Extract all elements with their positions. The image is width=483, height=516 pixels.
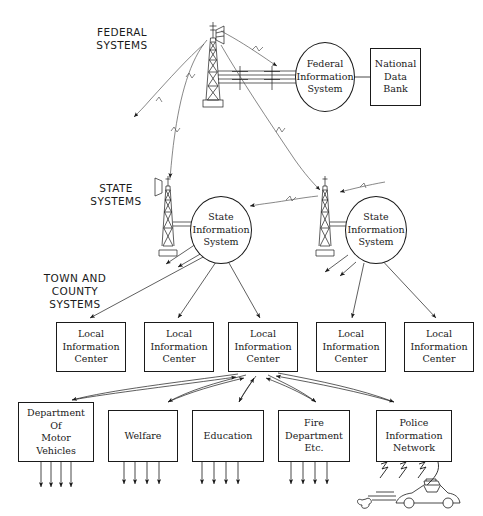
- state-right-to-local-links: [325, 255, 436, 318]
- tier-label-state: STATE SYSTEMS: [66, 182, 166, 208]
- federal-information-system-node[interactable]: Federal Information System: [295, 42, 355, 112]
- fire-department-node[interactable]: Fire Department Etc.: [278, 410, 350, 462]
- local-information-center-3[interactable]: Local Information Center: [228, 322, 298, 372]
- local-center-to-departments-links: [72, 373, 394, 402]
- local-information-center-5[interactable]: Local Information Center: [404, 322, 474, 372]
- education-node[interactable]: Education: [192, 410, 264, 462]
- federal-transmission-lines: [218, 66, 298, 90]
- local-information-center-1[interactable]: Local Information Center: [56, 322, 126, 372]
- department-of-motor-vehicles-node[interactable]: Department Of Motor Vehicles: [18, 402, 94, 462]
- local-information-center-4[interactable]: Local Information Center: [316, 322, 386, 372]
- department-output-arrows: [41, 462, 327, 487]
- figure-canvas: FEDERAL SYSTEMS STATE SYSTEMS TOWN AND C…: [0, 0, 483, 516]
- tier-label-federal: FEDERAL SYSTEMS: [72, 26, 172, 52]
- police-information-network-node[interactable]: Police Information Network: [376, 410, 452, 462]
- tier-label-town-county: TOWN AND COUNTY SYSTEMS: [20, 272, 130, 311]
- federal-radio-tower: [203, 22, 224, 107]
- local-information-center-2[interactable]: Local Information Center: [144, 322, 214, 372]
- police-car-illustration: [358, 479, 461, 508]
- state-information-system-node-1[interactable]: State Information System: [190, 196, 252, 264]
- state-radio-tower-right: [316, 176, 347, 256]
- federal-radio-links: [134, 31, 320, 190]
- welfare-node[interactable]: Welfare: [108, 410, 178, 462]
- state-information-system-node-2[interactable]: State Information System: [345, 196, 407, 264]
- national-data-bank-node[interactable]: National Data Bank: [370, 48, 421, 106]
